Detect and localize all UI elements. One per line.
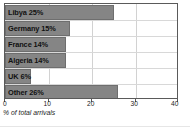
bar-label-libya: Libya 25% (8, 9, 43, 16)
x-axis-title: % of total arrivals (3, 110, 55, 117)
bar-row-germany[interactable]: Germany 15% (5, 21, 177, 36)
plot-area: Libya 25% Germany 15% France 14% Algeria… (4, 3, 178, 99)
bar-label-france: France 14% (8, 41, 48, 48)
x-tick-label-20: 20 (87, 101, 94, 108)
x-tick-label-30: 30 (131, 101, 138, 108)
x-tick-label-10: 10 (44, 101, 51, 108)
x-tick-label-0: 0 (3, 101, 7, 108)
bar-row-other[interactable]: Other 26% (5, 85, 177, 99)
bar-chart: Libya 25% Germany 15% France 14% Algeria… (0, 0, 190, 127)
bar-row-uk[interactable]: UK 6% (5, 69, 177, 84)
bar-label-other: Other 26% (8, 89, 44, 96)
bar-label-uk: UK 6% (8, 73, 31, 80)
x-tick-label-40: 40 (171, 101, 178, 108)
bar-row-algeria[interactable]: Algeria 14% (5, 53, 177, 68)
bar-label-germany: Germany 15% (8, 25, 56, 32)
bar-label-algeria: Algeria 14% (8, 57, 49, 64)
bar-series: Libya 25% Germany 15% France 14% Algeria… (5, 4, 177, 98)
bar-row-libya[interactable]: Libya 25% (5, 5, 177, 20)
bar-row-france[interactable]: France 14% (5, 37, 177, 52)
footer-divider (0, 126, 190, 127)
